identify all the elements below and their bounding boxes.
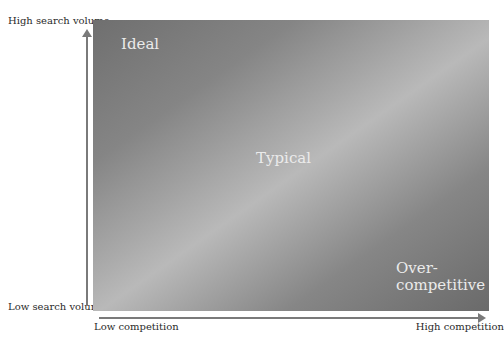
region-label-typical: Typical [256,150,311,167]
region-label-over-line1: Over- [396,260,485,277]
x-axis-low-label: Low competition [94,321,179,332]
x-axis-line [99,317,479,319]
x-axis-high-label: High competition [416,321,504,332]
region-label-ideal: Ideal [121,36,159,53]
y-axis-line [86,36,88,306]
region-label-over-line2: competitive [396,277,485,294]
y-axis-low-label: Low search volume [8,301,106,312]
gradient-quadrant: Ideal Typical Over- competitive [93,20,489,311]
region-label-over-competitive: Over- competitive [396,260,485,294]
